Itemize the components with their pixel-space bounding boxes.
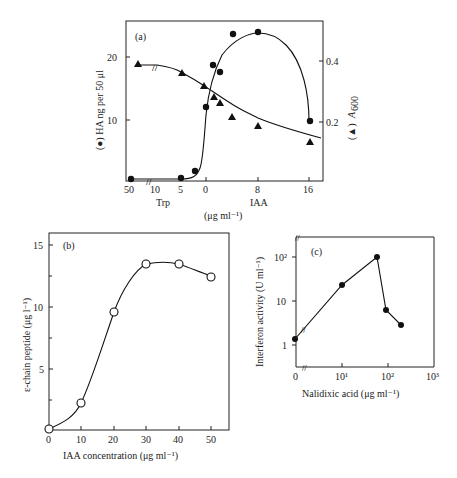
x-group-trp: Trp (156, 197, 170, 208)
interferon-curve (295, 257, 401, 339)
interferon-markers (292, 254, 404, 342)
x-tick: 5 (178, 184, 183, 195)
y-left-tick-10: 10 (107, 115, 117, 126)
y-label: ε-chain peptide (μg l⁻¹) (21, 298, 33, 392)
y-tick-5: 5 (39, 364, 44, 375)
x-tick: 10² (381, 371, 394, 382)
y-tick-1: 1 (282, 340, 287, 351)
x-tick: 0 (46, 434, 51, 445)
panel-b-frame (49, 233, 229, 430)
x-tick: 40 (173, 434, 183, 445)
a600-markers (134, 60, 314, 145)
x-tick: 0 (203, 184, 208, 195)
x-tick: 10¹ (335, 371, 348, 382)
y-right-label-marker: (▲) (346, 123, 358, 140)
y-left-tick-20: 20 (107, 52, 117, 63)
x-unit: (μg ml⁻¹) (204, 210, 242, 222)
panel-a-frame (126, 21, 323, 181)
figure: (a) 20 10 0.4 0.2 (●) HA ng per 50 μl (▲… (0, 0, 457, 478)
x-tick: 10 (76, 434, 86, 445)
x-tick: 50 (206, 434, 216, 445)
panel-c-label: (c) (311, 246, 322, 258)
y-left-label: (●) HA ng per 50 μl (94, 70, 106, 150)
axis-break-icon: // (295, 234, 300, 242)
y-tick-10: 10 (276, 296, 286, 307)
x-tick: 30 (141, 434, 151, 445)
x-tick: 10 (150, 184, 160, 195)
y-right-tick-0.4: 0.4 (326, 56, 339, 67)
panel-c: // // // (c) 10² 10 1 Interferon activit… (254, 234, 439, 400)
y-right-tick-0.2: 0.2 (326, 117, 339, 128)
x-tick: 10³ (426, 371, 439, 382)
y-right-label-text: A (346, 111, 357, 119)
panel-a: (a) 20 10 0.4 0.2 (●) HA ng per 50 μl (▲… (94, 21, 360, 222)
x-group-iaa: IAA (250, 197, 269, 208)
x-label: IAA concentration (μg ml⁻¹) (63, 450, 178, 462)
y-right-label-sub: 600 (349, 96, 360, 111)
axis-break-icon: // (152, 63, 158, 72)
a600-curve (138, 65, 321, 138)
panel-a-label: (a) (135, 31, 146, 43)
x-tick: 16 (303, 184, 313, 195)
axis-break-icon: // (302, 364, 307, 372)
panel-b-label: (b) (63, 240, 75, 252)
y-tick-15: 15 (33, 240, 43, 251)
x-tick: 8 (255, 184, 260, 195)
axis-break-icon: // (146, 177, 152, 186)
y-label: Interferon activity (U ml⁻¹) (254, 257, 266, 367)
peptide-markers (45, 260, 215, 433)
panel-b: (b) 15 10 5 ε-chain peptide (μg l⁻¹) 0 1… (21, 233, 229, 462)
y-tick-100: 10² (274, 252, 287, 263)
y-tick-10: 10 (33, 302, 43, 313)
x-tick: 50 (124, 184, 134, 195)
y-right-label: (▲) A 600 (346, 96, 360, 140)
x-label: Nalidixic acid (μg ml⁻¹) (302, 388, 399, 400)
x-tick: 0 (293, 371, 298, 382)
peptide-curve (49, 263, 211, 430)
x-tick: 20 (108, 434, 118, 445)
